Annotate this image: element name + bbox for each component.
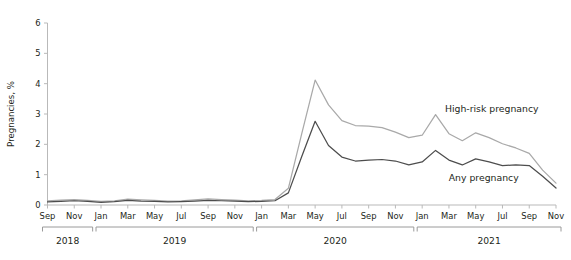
line-chart: 0123456Pregnancies, %SepNovJanMarMayJulS… [0, 0, 571, 260]
x-axis-tick-label: Nov [548, 211, 564, 221]
x-axis-tick-label: Sep [200, 211, 216, 221]
x-axis-tick-label: May [306, 211, 323, 221]
chart-figure: 0123456Pregnancies, %SepNovJanMarMayJulS… [0, 0, 571, 260]
year-bracket [417, 227, 561, 232]
year-bracket [43, 227, 93, 232]
y-axis-tick-label: 6 [35, 18, 40, 28]
y-axis-tick-label: 4 [35, 79, 40, 89]
x-axis-tick-label: Sep [521, 211, 537, 221]
x-axis-tick-label: May [467, 211, 484, 221]
x-axis-tick-label: May [146, 211, 163, 221]
series-annotation-label: High-risk pregnancy [445, 103, 539, 114]
y-axis-tick-label: 0 [35, 200, 40, 210]
year-label: 2021 [477, 235, 500, 246]
year-label: 2019 [163, 235, 187, 246]
year-bracket [96, 227, 253, 232]
y-axis-tick-label: 1 [35, 170, 40, 180]
x-axis-tick-label: Mar [120, 211, 136, 221]
x-axis-tick-label: Jul [496, 211, 507, 221]
x-axis-tick-label: Mar [280, 211, 296, 221]
x-axis-tick-label: Mar [441, 211, 457, 221]
x-axis-tick-label: Jan [94, 211, 108, 221]
y-axis-tick-label: 3 [35, 109, 40, 119]
series-annotation-label: Any pregnancy [449, 172, 519, 183]
x-axis-tick-label: Nov [387, 211, 403, 221]
x-axis-tick-label: Jan [415, 211, 429, 221]
x-axis-tick-label: Sep [40, 211, 56, 221]
y-axis-title: Pregnancies, % [6, 81, 16, 147]
x-axis-tick-label: Jan [254, 211, 268, 221]
x-axis-tick-label: Nov [66, 211, 82, 221]
year-bracket [257, 227, 414, 232]
x-axis-tick-label: Sep [361, 211, 377, 221]
year-label: 2018 [56, 235, 80, 246]
y-axis-tick-label: 5 [35, 48, 40, 58]
y-axis-tick-label: 2 [35, 139, 40, 149]
x-axis-tick-label: Jul [175, 211, 186, 221]
year-label: 2020 [324, 235, 348, 246]
x-axis-tick-label: Nov [227, 211, 243, 221]
x-axis-tick-label: Jul [336, 211, 347, 221]
